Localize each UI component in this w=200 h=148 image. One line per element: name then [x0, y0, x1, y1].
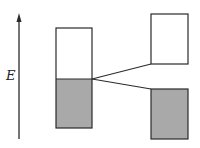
- left-band-filled-region: [56, 79, 92, 128]
- right-lower-band: [151, 89, 188, 139]
- right-upper-band: [151, 14, 188, 64]
- energy-axis-label: E: [6, 68, 16, 83]
- split-lines: [92, 64, 151, 89]
- energy-axis-arrow: [17, 13, 22, 139]
- left-band: [56, 28, 92, 128]
- band-splitting-diagram: [0, 0, 200, 148]
